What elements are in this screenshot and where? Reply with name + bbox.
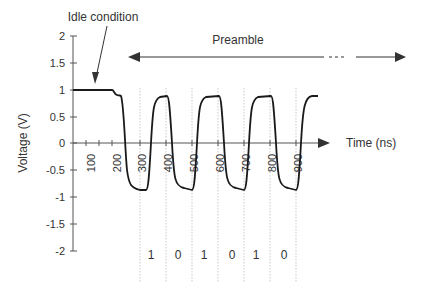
y-tick-label: -0.5 <box>46 164 65 176</box>
bit-label: 1 <box>253 248 260 262</box>
y-tick-labels: 2 1.5 1 0.5 0 -0.5 -1 -1.5 -2 <box>46 30 65 257</box>
dotted-gridlines <box>140 88 296 282</box>
preamble-right-arrowhead-icon <box>395 52 406 62</box>
idle-pointer-line <box>97 26 107 73</box>
y-tick-label: 1.5 <box>50 57 65 69</box>
y-tick-label: -1.5 <box>46 218 65 230</box>
y-tick-label: -2 <box>55 245 65 257</box>
voltage-time-chart: 2 1.5 1 0.5 0 -0.5 -1 -1.5 -2 Voltage (V… <box>0 0 424 283</box>
x-tick-label: 500 <box>188 154 200 172</box>
x-tick-label: 100 <box>85 154 97 172</box>
y-tick-label: 1 <box>59 84 65 96</box>
bit-label: 1 <box>201 248 208 262</box>
x-tick-label: 200 <box>111 154 123 172</box>
preamble-label: Preamble <box>212 33 264 47</box>
x-tick-label: 900 <box>292 154 304 172</box>
x-axis-label: Time (ns) <box>346 136 396 150</box>
signal-waveform <box>73 90 318 190</box>
x-tick-label: 700 <box>240 154 252 172</box>
x-axis-arrowhead-icon <box>318 138 330 148</box>
y-tick-label: 2 <box>59 30 65 42</box>
bit-label: 0 <box>229 248 236 262</box>
idle-arrowhead-icon <box>92 72 99 84</box>
x-tick-label: 300 <box>136 154 148 172</box>
bit-label: 0 <box>281 248 288 262</box>
y-tick-label: 0.5 <box>50 111 65 123</box>
y-axis-label: Voltage (V) <box>16 113 30 172</box>
bit-label: 1 <box>148 248 155 262</box>
idle-condition-label: Idle condition <box>68 10 139 24</box>
y-tick-label: 0 <box>59 137 65 149</box>
y-tick-label: -1 <box>55 191 65 203</box>
bit-label: 0 <box>175 248 182 262</box>
